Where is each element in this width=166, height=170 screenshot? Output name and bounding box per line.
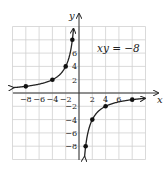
x-axis-label: x — [157, 94, 163, 105]
data-point — [130, 97, 135, 102]
x-tick-label: −6 — [33, 95, 45, 104]
y-tick-label: −6 — [65, 129, 77, 138]
x-tick-label: −4 — [47, 95, 59, 104]
data-point — [90, 117, 95, 122]
equation-label: xy = −8 — [97, 42, 140, 54]
x-tick-label: 4 — [103, 95, 108, 104]
right-branch-curve — [85, 98, 145, 157]
data-point — [24, 84, 29, 89]
y-tick-label: −8 — [65, 142, 77, 151]
y-tick-label: 4 — [72, 62, 77, 71]
y-tick-label: −2 — [65, 102, 77, 111]
x-tick-label: −8 — [20, 95, 32, 104]
data-point — [103, 104, 108, 109]
data-point — [83, 144, 88, 149]
left-branch-curve — [13, 29, 73, 88]
x-tick-label: 2 — [90, 95, 95, 104]
hyperbola-chart: x y −8−6−4−2246642−2−4−6−8 xy = −8 — [0, 0, 166, 170]
data-point — [50, 77, 55, 82]
y-tick-label: −4 — [65, 116, 77, 125]
data-point — [63, 64, 68, 69]
data-point — [70, 38, 75, 43]
y-tick-label: 2 — [72, 76, 77, 85]
y-axis-label: y — [68, 10, 75, 21]
y-tick-label: 6 — [72, 49, 77, 58]
tick-labels: −8−6−4−2246642−2−4−6−8 — [20, 49, 122, 151]
